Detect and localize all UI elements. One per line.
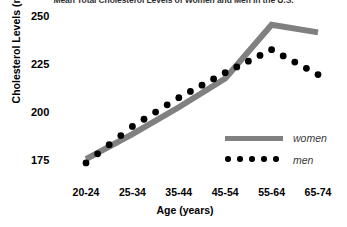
legend-dot [249, 156, 255, 162]
data-point-men [83, 160, 90, 167]
chart-title: Mean Total Cholesterol Levels of Women a… [0, 0, 347, 5]
data-point-men [175, 94, 182, 101]
legend-dot-swatch-men [225, 156, 283, 164]
data-point-men [303, 65, 310, 72]
y-tick-label: 200 [31, 106, 61, 118]
data-point-men [268, 46, 275, 53]
x-tick-label: 65-74 [290, 186, 346, 198]
data-point-men [117, 132, 124, 139]
data-point-men [280, 52, 287, 59]
data-point-men [233, 64, 240, 71]
y-tick-label: 250 [31, 10, 61, 22]
legend-dot [261, 156, 267, 162]
y-axis-title: Cholesterol Levels (mg/dL) [10, 0, 22, 106]
legend-dot [237, 156, 243, 162]
y-tick-label: 225 [31, 58, 61, 70]
data-point-men [257, 52, 264, 59]
legend-dot [225, 156, 231, 162]
data-point-men [222, 69, 229, 76]
data-point-men [94, 150, 101, 157]
data-point-men [315, 71, 322, 78]
data-point-men [106, 141, 113, 148]
data-point-men [187, 88, 194, 95]
legend-label-men: men [293, 154, 313, 166]
legend-line-swatch-women [225, 136, 283, 141]
data-point-men [245, 58, 252, 65]
data-point-men [210, 76, 217, 83]
data-point-men [164, 101, 171, 108]
data-point-men [152, 109, 159, 116]
data-point-men [129, 123, 136, 130]
legend-label-women: women [293, 132, 327, 144]
x-axis-ticks: 20-24 25-34 35-44 45-54 55-64 65-74 [40, 186, 347, 202]
x-axis-title: Age (years) [40, 204, 330, 216]
data-point-men [199, 82, 206, 89]
legend-item-women: women [225, 130, 345, 152]
data-point-men [291, 59, 298, 66]
legend-dot [273, 156, 279, 162]
y-tick-label: 175 [31, 154, 61, 166]
chart-legend: women men [225, 130, 345, 174]
data-point-men [141, 116, 148, 123]
legend-item-men: men [225, 152, 345, 174]
